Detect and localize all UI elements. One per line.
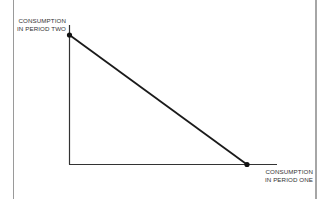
x-axis-label: CONSUMPTION IN PERIOD ONE xyxy=(262,168,313,183)
y-axis-label-line-2: IN PERIOD TWO xyxy=(15,25,66,33)
y-intercept-point xyxy=(67,32,72,37)
x-intercept-point xyxy=(244,162,249,167)
budget-line xyxy=(70,35,248,165)
x-axis-label-line-1: CONSUMPTION xyxy=(262,168,313,176)
x-axis-label-line-2: IN PERIOD ONE xyxy=(262,176,313,184)
y-axis-label-line-1: CONSUMPTION xyxy=(15,17,66,25)
y-axis-label: CONSUMPTION IN PERIOD TWO xyxy=(15,17,66,32)
